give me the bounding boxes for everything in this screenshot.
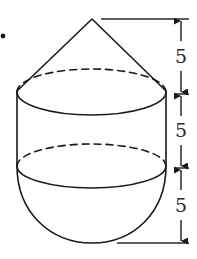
cylinder-top-front-edge	[17, 92, 166, 115]
composite-solid-diagram: 5 5 5	[0, 0, 197, 259]
hemisphere-height-label: 5	[175, 194, 187, 216]
cylinder-bottom-hidden-edge	[17, 144, 166, 166]
cylinder-bottom-front-edge	[17, 166, 166, 188]
cone-sides	[17, 19, 166, 91]
cone-base-hidden-edge	[17, 69, 166, 92]
cone-height-label: 5	[175, 45, 187, 67]
cylinder-height-label: 5	[175, 119, 187, 141]
hemisphere-outline	[17, 166, 166, 243]
bullet-dot	[1, 34, 6, 39]
